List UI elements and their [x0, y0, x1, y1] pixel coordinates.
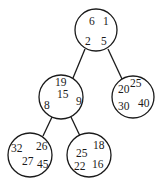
- tree-node-right: 20253040: [112, 76, 154, 118]
- node-value: 15: [57, 88, 69, 100]
- node-value: 25: [130, 77, 142, 89]
- node-value: 26: [36, 140, 48, 152]
- node-value: 25: [76, 147, 88, 159]
- node-value: 8: [44, 99, 50, 111]
- tree-node-left-left: 32262745: [8, 133, 52, 177]
- node-value: 6: [89, 15, 95, 27]
- tree-node-root: 6125: [75, 9, 117, 51]
- tree-diagram: 6125191589202530403226274525182216: [0, 0, 163, 185]
- node-value: 5: [101, 35, 107, 47]
- node-value: 30: [118, 100, 130, 112]
- node-value: 40: [138, 97, 150, 109]
- node-value: 19: [55, 76, 67, 88]
- node-circle: [75, 9, 117, 51]
- tree-edge-root-to-left: [73, 49, 85, 78]
- tree-edge-root-to-right: [108, 49, 122, 79]
- tree-edge-left-to-left-left: [43, 117, 52, 136]
- node-value: 18: [93, 139, 105, 151]
- node-value: 32: [11, 142, 23, 154]
- node-value: 20: [118, 83, 130, 95]
- node-value: 16: [92, 158, 104, 170]
- tree-edge-left-to-left-right: [71, 117, 80, 136]
- node-value: 27: [22, 155, 34, 167]
- node-value: 45: [37, 158, 49, 170]
- tree-node-left: 191589: [39, 75, 83, 119]
- node-value: 22: [74, 160, 86, 172]
- tree-node-left-right: 25182216: [67, 133, 111, 177]
- node-value: 2: [85, 35, 91, 47]
- node-value: 9: [76, 95, 82, 107]
- node-value: 1: [103, 15, 109, 27]
- tree-nodes: 6125191589202530403226274525182216: [8, 9, 154, 177]
